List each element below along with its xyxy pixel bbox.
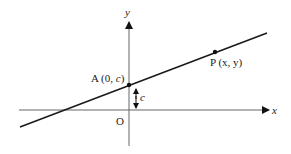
point-p — [213, 50, 217, 54]
point-a-label: A (0, c) — [91, 72, 125, 85]
intercept-label: c — [140, 91, 145, 103]
origin-label: O — [116, 115, 124, 127]
point-a — [127, 83, 131, 87]
straight-line — [20, 33, 267, 127]
x-axis-label: x — [271, 104, 277, 116]
point-p-label: P (x, y) — [210, 56, 243, 69]
y-axis-label: y — [124, 6, 130, 18]
line-graph-diagram: y x O A (0, c) P (x, y) c — [0, 0, 291, 154]
